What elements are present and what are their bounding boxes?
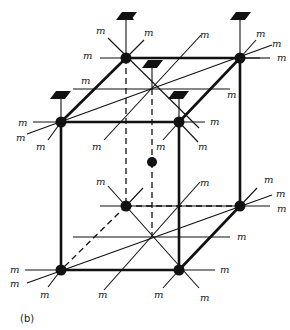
mirror-label: m bbox=[154, 289, 163, 300]
mirror-label: m bbox=[210, 116, 219, 127]
node-top-front-left bbox=[56, 117, 67, 128]
node-bottom-back-left bbox=[121, 201, 132, 212]
mirror-label: m bbox=[200, 292, 209, 303]
mirror-label: m bbox=[10, 264, 19, 275]
mirror-label: m bbox=[18, 117, 27, 128]
plane-symbol-icon bbox=[142, 60, 163, 68]
mirror-label: m bbox=[98, 289, 107, 300]
mirror-label: m bbox=[237, 231, 246, 242]
node-top-front-right bbox=[174, 117, 185, 128]
mirror-label: m bbox=[276, 188, 285, 199]
node-top-back-left bbox=[121, 53, 132, 64]
mirror-label: m bbox=[277, 203, 286, 214]
mirror-label: m bbox=[83, 50, 92, 61]
mirror-label: m bbox=[144, 27, 153, 38]
mirror-label: m bbox=[272, 38, 281, 49]
mirror-label: m bbox=[40, 289, 49, 300]
mirror-label: m bbox=[200, 29, 209, 40]
mirror-label: m bbox=[96, 25, 105, 36]
plane-symbol-icon bbox=[230, 12, 251, 20]
mirror-label: m bbox=[198, 141, 207, 152]
mirror-label: m bbox=[81, 75, 90, 86]
mirror-label: m bbox=[227, 89, 236, 100]
mirror-label: m bbox=[200, 177, 209, 188]
mirror-label: m bbox=[156, 141, 165, 152]
mirror-label: m bbox=[96, 176, 105, 187]
node-bottom-front-right bbox=[174, 265, 185, 276]
mirror-label: m bbox=[92, 141, 101, 152]
mirror-label: m bbox=[10, 278, 19, 289]
mirror-label: m bbox=[220, 264, 229, 275]
bcc-lattice-symmetry-diagram: mmmmmmmmmmmmmmmmmmmmmmmmmmmmm (b) bbox=[0, 0, 290, 330]
figure-caption: (b) bbox=[20, 313, 34, 324]
node-body-center bbox=[147, 157, 157, 167]
mirror-label: m bbox=[256, 28, 265, 39]
node-bottom-back-right bbox=[235, 201, 246, 212]
mirror-label: m bbox=[16, 132, 25, 143]
mirror-label: m bbox=[277, 52, 286, 63]
node-top-back-right bbox=[235, 53, 246, 64]
node-bottom-front-left bbox=[56, 265, 67, 276]
plane-symbol-icon bbox=[116, 12, 137, 20]
mirror-label: m bbox=[264, 174, 273, 185]
mirror-label: m bbox=[36, 141, 45, 152]
plane-symbol-icon bbox=[50, 91, 71, 99]
plane-symbol-icon bbox=[168, 91, 189, 99]
